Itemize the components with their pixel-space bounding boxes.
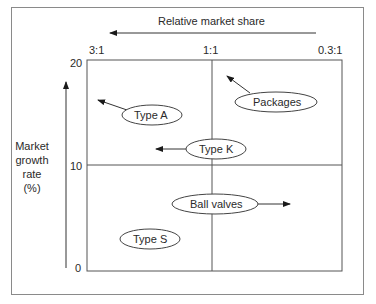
type-a-label: Type A <box>134 109 168 121</box>
x-tick-3-1: 3:1 <box>89 44 104 56</box>
y-title-line: (%) <box>6 181 58 195</box>
type-k-label: Type K <box>199 143 233 155</box>
x-axis-title: Relative market share <box>158 15 265 27</box>
x-tick-0-3-1: 0.3:1 <box>318 44 342 56</box>
type-s-label: Type S <box>133 233 167 245</box>
y-title-line: Market <box>6 139 58 153</box>
y-tick-0: 0 <box>75 262 81 274</box>
y-tick-10: 10 <box>70 160 82 172</box>
x-tick-1-1: 1:1 <box>203 44 218 56</box>
packages-label: Packages <box>253 96 301 108</box>
y-tick-20: 20 <box>70 57 82 69</box>
y-title-line: rate <box>6 167 58 181</box>
y-title-line: growth <box>6 153 58 167</box>
ball-valves-label: Ball valves <box>190 198 243 210</box>
y-axis-title: Market growth rate (%) <box>6 139 58 195</box>
